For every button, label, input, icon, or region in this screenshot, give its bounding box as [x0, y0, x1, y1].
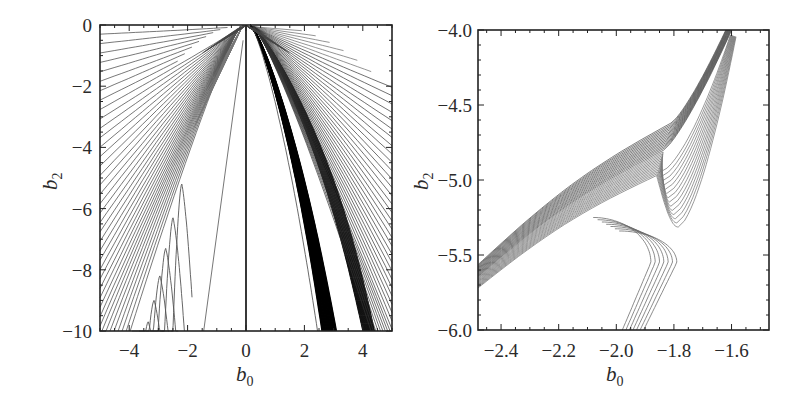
contour-line	[100, 47, 192, 81]
right-plot-area	[472, 30, 736, 338]
figure: −4−20240−2−4−6−8−10 b0 b2 −2.4−2.2−2.0−1…	[0, 0, 805, 413]
x-tick-label: −1.8	[657, 340, 691, 361]
contour-line	[100, 41, 199, 71]
contour-line	[100, 30, 220, 44]
contour-line	[100, 27, 241, 157]
left-xlabel: b0	[236, 362, 254, 389]
y-tick-label: 0	[83, 15, 93, 36]
outer-band-line	[250, 25, 366, 331]
lower-branch-line	[611, 227, 669, 338]
y-tick-label: −6	[72, 199, 92, 220]
x-tick-label: −2.2	[541, 340, 575, 361]
x-tick-label: −2	[177, 340, 197, 361]
contour-line	[114, 27, 240, 332]
y-tick-label: −4	[72, 137, 93, 158]
closed-loop	[162, 218, 185, 331]
x-tick-label: −2.0	[599, 340, 633, 361]
right-panel: −2.4−2.2−2.0−1.8−1.6−4.0−4.5−5.0−5.5−6.0…	[409, 20, 769, 389]
y-tick-label: −2	[72, 76, 92, 97]
left-panel: −4−20240−2−4−6−8−10 b0 b2	[38, 15, 392, 389]
outer-band-line	[250, 25, 367, 331]
dense-band-line	[250, 25, 325, 331]
band-line	[472, 30, 726, 271]
x-tick-label: 4	[358, 340, 368, 361]
y-tick-label: −4.5	[438, 95, 472, 116]
contour-line	[100, 33, 213, 53]
lower-branch-line	[606, 224, 664, 337]
right-xlabel: b0	[606, 362, 624, 389]
x-tick-label: −4	[119, 340, 140, 361]
right-ticks: −2.4−2.2−2.0−1.8−1.6−4.0−4.5−5.0−5.5−6.0	[438, 20, 769, 361]
contour-line	[193, 25, 243, 129]
y-tick-label: −8	[72, 260, 92, 281]
left-plot-area	[100, 25, 392, 331]
y-tick-label: −10	[62, 321, 92, 342]
x-tick-label: 0	[241, 340, 251, 361]
band-line	[472, 30, 731, 280]
x-tick-label: −2.4	[484, 340, 519, 361]
y-tick-label: −5.0	[438, 170, 472, 191]
outer-band-line	[250, 25, 368, 331]
lower-branch-line	[619, 231, 677, 338]
contour-line	[100, 27, 241, 176]
x-tick-label: −1.6	[714, 340, 748, 361]
outer-band-line	[250, 25, 367, 331]
right-ylabel: b2	[409, 173, 436, 191]
left-ylabel: b2	[38, 173, 65, 191]
closed-loop	[172, 184, 193, 331]
y-tick-label: −6.0	[438, 320, 472, 341]
y-tick-label: −4.0	[438, 20, 472, 41]
y-tick-label: −5.5	[438, 245, 472, 266]
contour-line	[100, 27, 241, 167]
lower-branch-line	[615, 229, 673, 338]
x-tick-label: 2	[300, 340, 310, 361]
lower-branch-line	[602, 222, 660, 338]
